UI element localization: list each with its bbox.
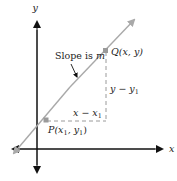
x-axis-label: x bbox=[169, 143, 175, 154]
run-label: x − x1 bbox=[73, 107, 102, 120]
slope-diagram: y x P(x1, y1) Q(x, y) Slope is m x − x1 … bbox=[0, 0, 177, 181]
rise-label: y − y1 bbox=[109, 83, 139, 96]
slope-pointer-arrow bbox=[71, 64, 77, 77]
diagram-canvas: y x P(x1, y1) Q(x, y) Slope is m x − x1 … bbox=[0, 0, 177, 181]
point-p-marker bbox=[44, 118, 49, 123]
point-q-label: Q(x, y) bbox=[111, 46, 143, 57]
slope-label: Slope is m bbox=[55, 50, 105, 61]
point-p-label: P(x1, y1) bbox=[47, 124, 87, 137]
y-axis-label: y bbox=[32, 2, 39, 13]
